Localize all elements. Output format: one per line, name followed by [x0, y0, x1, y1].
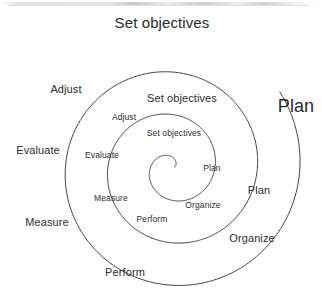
- inner-label-perform: Perform: [137, 215, 168, 224]
- middle-label-measure: Measure: [25, 217, 69, 228]
- spiral-curve: [65, 72, 300, 286]
- inner-label-adjust: Adjust: [112, 113, 136, 122]
- middle-label-adjust: Adjust: [50, 84, 81, 95]
- middle-label-set-objectives: Set objectives: [147, 93, 217, 104]
- spiral-diagram: Set objectives Plan Organize Perform Mea…: [0, 0, 322, 292]
- middle-label-evaluate: Evaluate: [16, 145, 60, 156]
- inner-label-measure: Measure: [94, 194, 128, 203]
- middle-label-perform: Perform: [105, 267, 145, 278]
- outer-label-plan: Plan: [278, 97, 314, 115]
- outer-label-set-objectives: Set objectives: [115, 15, 210, 30]
- middle-label-organize: Organize: [229, 233, 274, 244]
- inner-label-evaluate: Evaluate: [85, 151, 119, 160]
- inner-label-organize: Organize: [185, 201, 220, 210]
- inner-label-set-objectives: Set objectives: [147, 129, 201, 138]
- inner-label-plan: Plan: [203, 164, 220, 173]
- middle-label-plan: Plan: [248, 185, 270, 196]
